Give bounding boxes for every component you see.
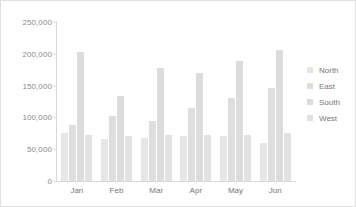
legend-item[interactable]: East bbox=[307, 78, 340, 94]
legend-item[interactable]: South bbox=[307, 94, 340, 110]
y-axis-tick-label: 100,000 bbox=[22, 113, 52, 122]
bar[interactable] bbox=[268, 88, 275, 181]
bar[interactable] bbox=[220, 136, 227, 181]
bar[interactable] bbox=[157, 68, 164, 181]
legend-label: South bbox=[319, 98, 340, 107]
x-axis-tick-label: Apr bbox=[190, 186, 202, 195]
bar-group bbox=[176, 22, 216, 181]
x-axis-tick-label: Mar bbox=[149, 186, 163, 195]
bar-group bbox=[216, 22, 256, 181]
y-axis-tick-label: 200,000 bbox=[22, 49, 52, 58]
x-axis-tick-label: Jan bbox=[70, 186, 83, 195]
legend-swatch-icon bbox=[307, 99, 313, 105]
bar[interactable] bbox=[260, 143, 267, 181]
bar[interactable] bbox=[165, 135, 172, 181]
legend-item[interactable]: North bbox=[307, 62, 340, 78]
bar[interactable] bbox=[109, 116, 116, 182]
legend-swatch-icon bbox=[307, 83, 313, 89]
bar-chart: 050,000100,000150,000200,000250,000 Nort… bbox=[0, 0, 356, 207]
legend-label: West bbox=[319, 114, 337, 123]
bar[interactable] bbox=[284, 133, 291, 181]
bar[interactable] bbox=[69, 125, 76, 181]
y-axis-tick-label: 250,000 bbox=[22, 18, 52, 27]
bar-group bbox=[97, 22, 137, 181]
plot-area: 050,000100,000150,000200,000250,000 bbox=[57, 22, 295, 181]
bar[interactable] bbox=[188, 108, 195, 181]
bar[interactable] bbox=[196, 73, 203, 181]
bar[interactable] bbox=[228, 98, 235, 181]
bar[interactable] bbox=[77, 52, 84, 181]
bar[interactable] bbox=[204, 135, 211, 181]
bar[interactable] bbox=[141, 138, 148, 181]
y-axis-tick-label: 150,000 bbox=[22, 81, 52, 90]
bar[interactable] bbox=[236, 61, 243, 181]
bar-group bbox=[255, 22, 295, 181]
legend-label: North bbox=[319, 66, 339, 75]
x-axis-tick-label: Feb bbox=[110, 186, 124, 195]
y-axis-tick-label: 0 bbox=[47, 177, 52, 186]
legend-swatch-icon bbox=[307, 67, 313, 73]
bar[interactable] bbox=[180, 136, 187, 181]
x-axis-line bbox=[56, 181, 296, 182]
legend-swatch-icon bbox=[307, 115, 313, 121]
y-axis-tick-label: 50,000 bbox=[27, 145, 52, 154]
x-axis-tick-label: Jun bbox=[269, 186, 282, 195]
legend-item[interactable]: West bbox=[307, 110, 340, 126]
bar-group bbox=[136, 22, 176, 181]
bar[interactable] bbox=[61, 133, 68, 181]
bar[interactable] bbox=[276, 50, 283, 181]
bar[interactable] bbox=[85, 135, 92, 181]
bar[interactable] bbox=[149, 121, 156, 181]
bar[interactable] bbox=[101, 139, 108, 181]
x-axis-tick-label: May bbox=[228, 186, 243, 195]
legend-label: East bbox=[319, 82, 335, 91]
bar[interactable] bbox=[244, 135, 251, 181]
bar[interactable] bbox=[125, 136, 132, 181]
chart-legend: NorthEastSouthWest bbox=[307, 62, 340, 126]
bar[interactable] bbox=[117, 96, 124, 181]
bar-group bbox=[57, 22, 97, 181]
